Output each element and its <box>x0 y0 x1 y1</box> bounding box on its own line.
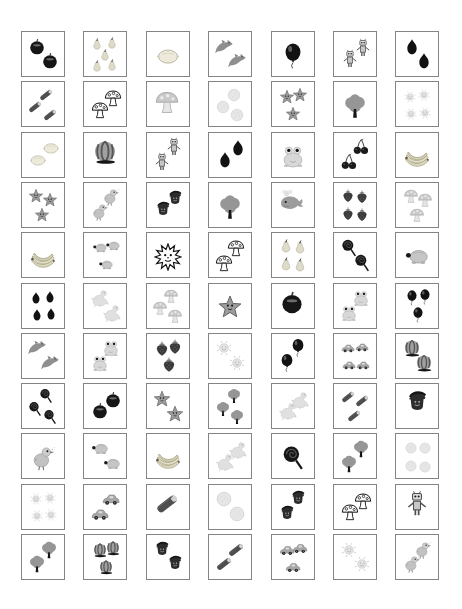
watermelon-icon <box>98 558 115 575</box>
grid-cell <box>271 232 315 278</box>
bird-icon <box>402 554 422 574</box>
car-icon <box>354 339 369 354</box>
grid-cell <box>333 182 377 228</box>
grid-cell <box>83 534 127 580</box>
grid-cell <box>208 484 252 530</box>
whale-icon <box>278 188 306 216</box>
grid-cell <box>395 31 439 77</box>
grid-cell <box>208 182 252 228</box>
pear-icon <box>106 59 119 72</box>
grid-cell <box>21 182 65 228</box>
dinosaur-icon <box>102 303 122 323</box>
car-icon <box>355 357 370 372</box>
tree-icon <box>27 554 47 574</box>
mushroom-icon <box>153 88 181 116</box>
mushroom-outline-icon <box>214 253 234 273</box>
sun-face-icon <box>352 554 372 574</box>
grid-cell <box>208 534 252 580</box>
gnome-icon <box>277 504 297 524</box>
plum-icon <box>43 307 58 322</box>
zucchini-icon <box>41 106 58 123</box>
mushroom-outline-icon <box>103 88 123 108</box>
mushroom-icon <box>166 308 183 325</box>
grid-cell <box>395 333 439 379</box>
strawberry-icon <box>341 207 356 222</box>
picture-grid <box>0 0 462 609</box>
grid-cell <box>333 132 377 178</box>
grid-cell <box>146 232 190 278</box>
star-face-icon <box>165 404 185 424</box>
car-icon <box>90 504 110 524</box>
grid-cell <box>83 383 127 429</box>
plum-icon <box>228 138 248 158</box>
pear-icon <box>278 257 293 272</box>
sun-face-icon <box>43 508 58 523</box>
plum-icon <box>29 308 44 323</box>
car-icon <box>285 558 302 575</box>
grid-cell <box>21 283 65 329</box>
balloon-icon <box>410 307 427 324</box>
sun-face-icon <box>417 106 432 121</box>
frog-icon <box>90 353 110 373</box>
lemon-icon <box>41 138 61 158</box>
balloon-icon <box>279 42 307 70</box>
grid-cell <box>333 333 377 379</box>
grid-cell <box>83 81 127 127</box>
car-icon <box>292 540 309 557</box>
balloon-icon <box>416 288 433 305</box>
turtle-icon <box>98 256 115 273</box>
watermelon-icon <box>104 540 121 557</box>
bird-icon <box>90 202 110 222</box>
grid-cell <box>395 182 439 228</box>
grid-cell <box>333 31 377 77</box>
sun-face-icon <box>28 492 43 507</box>
pear-icon <box>292 258 307 273</box>
grid-cell <box>21 333 65 379</box>
grid-cell <box>333 433 377 479</box>
grid-cell <box>83 182 127 228</box>
robot-icon <box>353 38 373 58</box>
tree-icon <box>341 92 369 120</box>
grid-cell <box>83 132 127 178</box>
grid-cell <box>21 534 65 580</box>
grid-cell <box>333 232 377 278</box>
grid-cell <box>208 333 252 379</box>
grid-cell <box>21 383 65 429</box>
sun-face-icon <box>42 490 57 505</box>
mushroom-icon <box>408 206 425 223</box>
lollipop-icon <box>352 253 372 273</box>
grid-cell <box>208 81 252 127</box>
grid-cell <box>146 333 190 379</box>
grid-cell <box>333 484 377 530</box>
grid-cell <box>146 31 190 77</box>
star-face-icon <box>285 105 302 122</box>
grid-cell <box>21 132 65 178</box>
watermelon-icon <box>414 353 434 373</box>
grid-cell <box>83 283 127 329</box>
grid-cell <box>395 433 439 479</box>
grid-cell <box>83 31 127 77</box>
bird-icon <box>29 444 57 472</box>
grid-cell <box>83 333 127 379</box>
dolphin-icon <box>40 353 60 373</box>
grid-cell <box>395 534 439 580</box>
grid-cell <box>146 283 190 329</box>
grid-cell <box>271 383 315 429</box>
orange-icon <box>228 106 245 123</box>
orange-icon <box>227 504 247 524</box>
gnome-icon <box>165 554 185 574</box>
grid-cell <box>21 433 65 479</box>
sun-face-icon <box>29 509 44 524</box>
worksheet-page <box>0 0 462 609</box>
star-face-icon <box>34 206 51 223</box>
turtle-icon <box>104 238 121 255</box>
grid-cell <box>83 484 127 530</box>
grid-cell <box>395 132 439 178</box>
mushroom-outline-icon <box>353 491 373 511</box>
grid-cell <box>395 232 439 278</box>
grid-cell <box>333 283 377 329</box>
banana-bunch-icon <box>403 142 431 170</box>
lemon-icon <box>154 42 182 70</box>
grid-cell <box>83 433 127 479</box>
orange-icon <box>403 458 418 473</box>
